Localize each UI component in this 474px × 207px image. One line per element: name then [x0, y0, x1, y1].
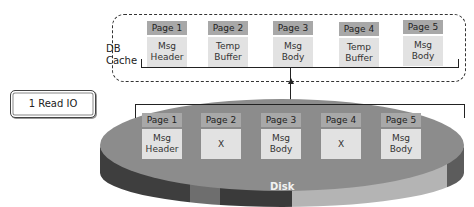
page-content: X	[321, 129, 361, 159]
cache-bracket	[141, 59, 459, 68]
disk-label: Disk	[270, 181, 294, 192]
page-title: Page 2	[201, 113, 241, 127]
page-title: Page 3	[273, 21, 313, 35]
disk-page-4: Page 4 X	[321, 113, 361, 159]
disk-page-3: Page 3 Msg Body	[261, 113, 301, 159]
db-cache-label: DB Cache	[106, 43, 137, 67]
page-content: X	[201, 129, 241, 159]
page-title: Page 4	[321, 113, 361, 127]
page-title: Page 1	[147, 21, 187, 35]
page-title: Page 2	[208, 21, 248, 35]
page-title: Page 5	[403, 20, 443, 34]
page-content: Msg Header	[142, 129, 182, 159]
page-title: Page 3	[261, 113, 301, 127]
arrow-up-icon	[288, 78, 294, 84]
disk-page-5: Page 5 Msg Body	[381, 113, 421, 159]
page-title: Page 4	[339, 22, 379, 36]
read-io-callout: 1 Read IO	[10, 90, 96, 118]
page-content: Msg Body	[381, 129, 421, 159]
page-title: Page 5	[381, 113, 421, 127]
disk-page-1: Page 1 Msg Header	[142, 113, 182, 159]
page-title: Page 1	[142, 113, 182, 127]
page-content: Msg Body	[261, 129, 301, 159]
disk-page-2: Page 2 X	[201, 113, 241, 159]
